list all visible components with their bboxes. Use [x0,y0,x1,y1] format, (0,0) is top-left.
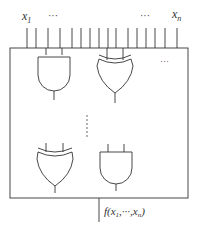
input-ellipsis-left: ··· [48,10,58,21]
and-gate-icon [100,144,132,191]
circuit-box [10,48,188,198]
output-label: f(x1,···,xn) [104,205,145,219]
circuit-diagram: x1 ··· ··· xn ··· [0,0,198,228]
xor-gate-icon [37,143,73,193]
input-label-x1: x1 [21,9,31,25]
and-gate-icon [38,48,70,100]
input-label-xn: xn [171,7,181,23]
gates-ellipsis: ··· [160,56,169,66]
input-wires [27,28,177,48]
vertical-ellipsis [86,115,87,136]
input-ellipsis-right: ··· [140,10,150,21]
xor-gate-icon [97,48,133,103]
